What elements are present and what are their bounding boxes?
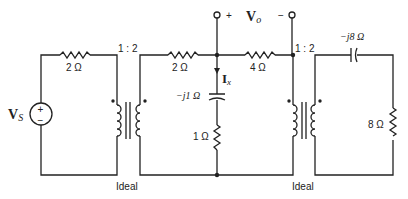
vo-plus-terminal [214,12,220,18]
resistor-mid-2ohm [168,52,198,58]
label-vo: Vo [246,9,261,25]
label-r-mid-right: 4 Ω [250,62,266,73]
circuit-diagram: 2 Ω 2 Ω 4 Ω −j1 Ω 1 Ω −j8 Ω 8 Ω 1 : 2 1 … [0,0,408,199]
resistor-shunt-1ohm [214,125,220,150]
source-plus-sign: + [38,104,44,115]
capacitor-right [351,48,357,62]
vo-minus-sign: − [278,10,284,21]
vo-minus-terminal [289,12,295,18]
dot-t1-secondary [143,99,146,102]
transformer1-primary-coil [117,105,121,136]
label-t1-ideal: Ideal [116,181,138,192]
transformer2-secondary-coil [311,105,315,136]
resistor-left-2ohm [60,52,90,58]
label-vs: VS [8,107,23,123]
label-r-left: 2 Ω [66,62,82,73]
dot-t2-primary [287,99,290,102]
transformer1-secondary-coil [136,105,140,136]
dot-t2-secondary [318,99,321,102]
label-cap-right: −j8 Ω [340,31,364,42]
label-t2-ratio: 1 : 2 [295,43,315,54]
node-bottom-mid [215,173,219,177]
label-cap-shunt: −j1 Ω [176,90,200,101]
vo-plus-sign: + [226,10,232,21]
node-top-mid [215,53,219,57]
wire-right-loop [315,55,393,175]
current-arrow-icon [214,68,220,74]
transformer2-core [302,102,306,139]
transformer2-primary-coil [293,105,297,136]
dot-t1-primary [111,99,114,102]
source-minus-sign: − [38,115,44,126]
label-r-load: 8 Ω [368,119,384,130]
label-r-shunt: 1 Ω [193,131,209,142]
capacitor-shunt [209,94,225,100]
label-t1-ratio: 1 : 2 [118,43,138,54]
label-r-mid-left: 2 Ω [172,62,188,73]
resistor-load-8ohm [390,108,396,136]
transformer1-core [126,102,130,139]
resistor-mid-4ohm [245,52,275,58]
label-t2-ideal: Ideal [292,181,314,192]
label-ix: Ix [222,71,231,87]
